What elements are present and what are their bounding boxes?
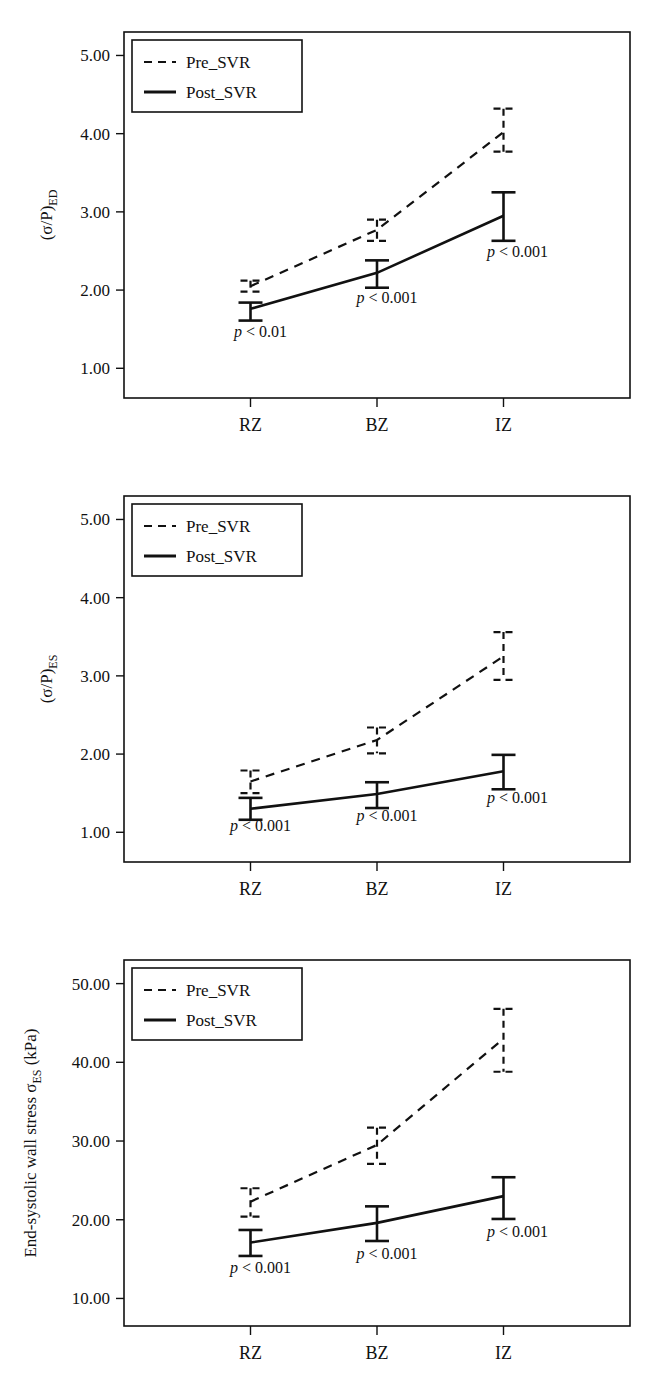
p-comparison: < 0.001 [495, 1223, 548, 1240]
p-value-annotation: p < 0.001 [355, 289, 417, 307]
y-axis-title-tail: (kPa) [21, 1028, 40, 1069]
y-axis-title-main: End-systolic wall stress σ [21, 1084, 40, 1258]
p-symbol: p [355, 807, 364, 825]
p-value-annotation: p < 0.001 [355, 807, 417, 825]
figure-three-panel-chart: 1.002.003.004.005.00RZBZIZ(σ/P)EDp < 0.0… [0, 0, 666, 1392]
p-comparison: < 0.001 [495, 243, 548, 260]
x-axis-tick-label: BZ [365, 1343, 388, 1363]
y-axis-tick-label: 4.00 [80, 125, 110, 144]
y-axis-tick-label: 5.00 [80, 510, 110, 529]
chart-panel-ed: 1.002.003.004.005.00RZBZIZ(σ/P)EDp < 0.0… [0, 0, 666, 464]
y-axis-title: (σ/P)ED [37, 189, 60, 240]
legend-label-post: Post_SVR [186, 547, 258, 566]
y-axis-tick-label: 2.00 [80, 745, 110, 764]
chart-svg-es: 1.002.003.004.005.00RZBZIZ(σ/P)ESp < 0.0… [0, 464, 666, 928]
series-line-pre_svr [251, 1039, 504, 1202]
y-axis-title-subscript: ED [46, 189, 60, 205]
y-axis-title-subscript: ES [30, 1070, 44, 1084]
y-axis-tick-label: 40.00 [72, 1053, 110, 1072]
p-value-annotation: p < 0.01 [233, 323, 287, 341]
p-symbol: p [355, 1245, 364, 1263]
x-axis-tick-label: IZ [495, 879, 512, 899]
x-axis-tick-label: RZ [239, 1343, 262, 1363]
p-value-annotation: p < 0.001 [229, 1259, 291, 1277]
y-axis-title-main: (σ/P) [37, 669, 56, 704]
y-axis-tick-label: 3.00 [80, 667, 110, 686]
legend-label-pre: Pre_SVR [186, 53, 251, 72]
y-axis-tick-label: 10.00 [72, 1289, 110, 1308]
y-axis-title: (σ/P)ES [37, 655, 60, 704]
y-axis-tick-label: 20.00 [72, 1211, 110, 1230]
y-axis-tick-label: 3.00 [80, 203, 110, 222]
p-symbol: p [229, 1259, 238, 1277]
p-value-annotation: p < 0.001 [229, 817, 291, 835]
p-comparison: < 0.001 [364, 807, 417, 824]
y-axis-tick-label: 1.00 [80, 823, 110, 842]
y-axis-title-main: (σ/P) [37, 206, 56, 241]
y-axis-title-subscript: ES [46, 655, 60, 669]
chart-svg-wallstress: 10.0020.0030.0040.0050.00RZBZIZEnd-systo… [0, 928, 666, 1392]
legend-label-post: Post_SVR [186, 1011, 258, 1030]
y-axis-title-text: End-systolic wall stress σES (kPa) [21, 1028, 44, 1257]
y-axis-tick-label: 50.00 [72, 975, 110, 994]
p-value-annotation: p < 0.001 [486, 243, 548, 261]
p-symbol: p [486, 243, 495, 261]
p-comparison: < 0.01 [242, 323, 287, 340]
x-axis-tick-label: IZ [495, 1343, 512, 1363]
p-symbol: p [486, 1223, 495, 1241]
y-axis-title-text: (σ/P)ED [37, 189, 60, 240]
legend-label-post: Post_SVR [186, 83, 258, 102]
p-comparison: < 0.001 [364, 1245, 417, 1262]
x-axis-tick-label: IZ [495, 415, 512, 435]
p-symbol: p [233, 323, 242, 341]
x-axis-tick-label: RZ [239, 879, 262, 899]
p-value-annotation: p < 0.001 [486, 789, 548, 807]
y-axis-tick-label: 4.00 [80, 589, 110, 608]
chart-panel-es: 1.002.003.004.005.00RZBZIZ(σ/P)ESp < 0.0… [0, 464, 666, 928]
y-axis-title: End-systolic wall stress σES (kPa) [21, 1028, 44, 1257]
y-axis-tick-label: 5.00 [80, 46, 110, 65]
p-comparison: < 0.001 [238, 1259, 291, 1276]
p-symbol: p [229, 817, 238, 835]
x-axis-tick-label: BZ [365, 879, 388, 899]
p-value-annotation: p < 0.001 [355, 1245, 417, 1263]
y-axis-tick-label: 2.00 [80, 281, 110, 300]
p-symbol: p [486, 789, 495, 807]
legend-label-pre: Pre_SVR [186, 517, 251, 536]
y-axis-tick-label: 1.00 [80, 359, 110, 378]
p-value-annotation: p < 0.001 [486, 1223, 548, 1241]
series-line-pre_svr [251, 656, 504, 781]
chart-svg-ed: 1.002.003.004.005.00RZBZIZ(σ/P)EDp < 0.0… [0, 0, 666, 464]
p-comparison: < 0.001 [495, 789, 548, 806]
legend-label-pre: Pre_SVR [186, 981, 251, 1000]
p-comparison: < 0.001 [238, 817, 291, 834]
x-axis-tick-label: RZ [239, 415, 262, 435]
p-symbol: p [355, 289, 364, 307]
y-axis-title-text: (σ/P)ES [37, 655, 60, 704]
y-axis-tick-label: 30.00 [72, 1132, 110, 1151]
chart-panel-wallstress: 10.0020.0030.0040.0050.00RZBZIZEnd-systo… [0, 928, 666, 1392]
x-axis-tick-label: BZ [365, 415, 388, 435]
p-comparison: < 0.001 [364, 289, 417, 306]
